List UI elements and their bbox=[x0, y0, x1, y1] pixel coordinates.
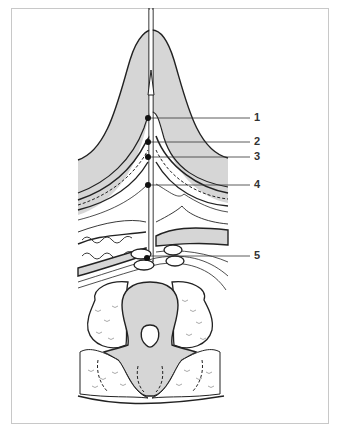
anatomy-diagram bbox=[0, 0, 339, 431]
marker-4 bbox=[145, 182, 151, 188]
marker-1 bbox=[145, 115, 151, 121]
paraspinal-muscle-right bbox=[172, 282, 212, 348]
marker-3 bbox=[145, 154, 151, 160]
label-2: 2 bbox=[254, 136, 260, 147]
label-4: 4 bbox=[254, 179, 260, 190]
label-3: 3 bbox=[254, 151, 260, 162]
skin-back bbox=[78, 396, 224, 404]
marker-5 bbox=[144, 255, 150, 261]
label-5: 5 bbox=[254, 250, 260, 261]
label-1: 1 bbox=[254, 112, 260, 123]
paraspinal-muscle-left bbox=[88, 282, 128, 348]
marker-2 bbox=[145, 139, 151, 145]
muscle-band bbox=[156, 228, 228, 246]
